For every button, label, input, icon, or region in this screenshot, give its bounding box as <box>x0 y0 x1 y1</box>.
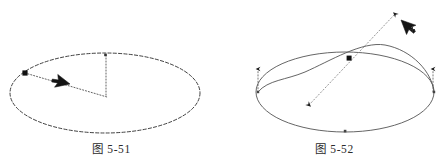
figure-page: 图 5-51 <box>0 0 446 168</box>
figure-5-52-canvas <box>223 0 446 145</box>
ellipse-outline <box>10 53 200 133</box>
left-vertex-marker[interactable] <box>257 91 259 93</box>
figure-caption-5-51: 图 5-51 <box>0 140 223 156</box>
right-vertex-marker[interactable] <box>433 91 435 93</box>
ellipse-outline <box>256 52 434 132</box>
figure-panel-5-51: 图 5-51 <box>0 0 223 168</box>
bottom-point-marker[interactable] <box>344 130 347 133</box>
square-handle-marker[interactable] <box>347 56 352 61</box>
figure-5-51-canvas <box>0 0 223 145</box>
main-axis-dotted-arrow[interactable] <box>309 14 395 105</box>
square-handle-marker[interactable] <box>22 70 27 75</box>
figure-panel-5-52: 图 5-52 <box>223 0 446 168</box>
top-point-marker[interactable] <box>104 54 107 57</box>
mouse-cursor-icon[interactable] <box>49 74 70 94</box>
mouse-cursor-icon[interactable] <box>401 16 418 36</box>
figure-caption-5-52: 图 5-52 <box>223 140 446 156</box>
